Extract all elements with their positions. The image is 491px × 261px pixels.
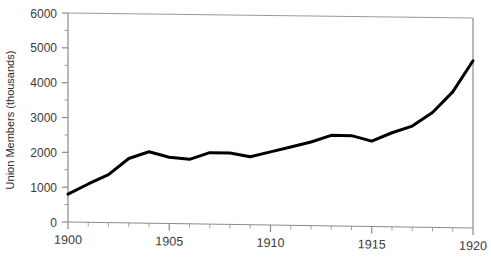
y-tick-label: 2000 [30,146,57,160]
y-axis-label-wrapper: Union Members (thousands) [0,0,21,240]
y-tick-label: 6000 [30,7,57,21]
x-tick-label: 1920 [459,239,487,253]
top-spine [68,13,473,18]
chart-container: Union Members (thousands) 01000200030004… [0,0,491,261]
line-chart-svg: 0100020003000400050006000 19001905191019… [0,0,491,261]
union-members-line [68,61,473,194]
y-tick-label: 5000 [30,41,57,55]
y-tick-label: 3000 [30,111,57,125]
y-axis-label: Union Members (thousands) [4,51,16,190]
x-tick-label: 1905 [155,234,183,248]
x-tick-label: 1910 [257,236,285,250]
y-tick-label: 1000 [30,181,57,195]
x-tick-label: 1915 [358,237,386,251]
y-axis-ticks: 0100020003000400050006000 [30,7,68,230]
y-tick-label: 4000 [30,76,57,90]
y-tick-label: 0 [50,216,57,230]
x-tick-label: 1900 [54,233,82,247]
